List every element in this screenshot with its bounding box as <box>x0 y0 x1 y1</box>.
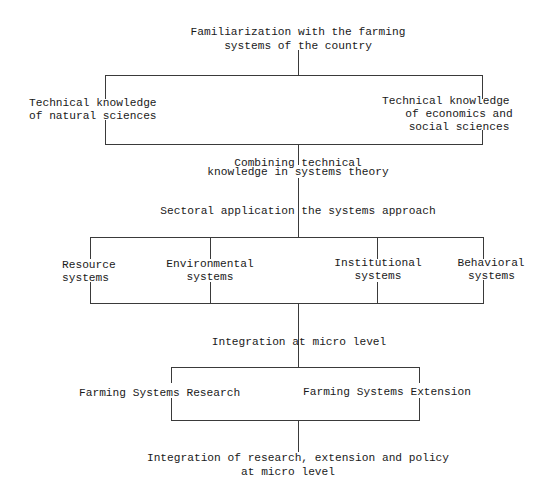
farming-systems-research: Farming Systems Research <box>79 387 240 400</box>
systems-divider-lower <box>210 282 211 304</box>
systems-left-upper <box>90 237 91 259</box>
systems-top-line <box>90 237 484 238</box>
environmental-systems-line-2: systems <box>187 271 234 284</box>
bracket-bottom-line <box>105 144 483 145</box>
behavioral-systems-line-2: systems <box>468 270 515 283</box>
systems-right-lower <box>483 280 484 304</box>
connector-line <box>298 420 299 452</box>
farming-right-upper <box>419 367 420 383</box>
economics-line-2: of economics and <box>405 108 512 121</box>
connector-line <box>298 50 299 76</box>
sectoral-application: Sectoral application the systems approac… <box>160 205 435 218</box>
resource-systems-line-1: Resource <box>62 259 116 272</box>
integration-micro-level: Integration at micro level <box>212 336 387 349</box>
farming-left-upper <box>171 367 172 383</box>
resource-systems-line-2: systems <box>62 272 109 285</box>
final-integration-line-1: Integration of research, extension and p… <box>147 452 449 465</box>
institutional-systems-line-1: Institutional <box>334 257 421 270</box>
systems-divider-upper <box>210 237 211 259</box>
farming-bottom-line <box>171 420 420 421</box>
farming-left-lower <box>171 398 172 420</box>
economics-line-1: Technical knowledge <box>382 95 510 108</box>
behavioral-systems-line-1: Behavioral <box>457 257 524 270</box>
systems-bottom-line <box>90 303 484 304</box>
systems-divider-upper <box>377 237 378 259</box>
economics-line-3: social sciences <box>409 121 510 134</box>
systems-right-upper <box>483 237 484 259</box>
bracket-left-lower <box>105 120 106 145</box>
farming-top-line <box>171 367 420 368</box>
bracket-top-line <box>105 75 483 76</box>
title-line-1: Familiarization with the farming <box>191 26 406 39</box>
environmental-systems-line-1: Environmental <box>166 258 253 271</box>
bracket-left-upper <box>105 75 106 99</box>
farming-systems-extension: Farming Systems Extension <box>303 386 471 399</box>
natural-sciences-line-2: of natural sciences <box>29 110 157 123</box>
final-integration-line-2: at micro level <box>241 466 335 479</box>
institutional-systems-line-2: systems <box>355 270 402 283</box>
systems-divider-lower <box>377 282 378 304</box>
natural-sciences-line-1: Technical knowledge <box>29 97 157 110</box>
farming-right-lower <box>419 398 420 420</box>
systems-left-lower <box>90 282 91 304</box>
